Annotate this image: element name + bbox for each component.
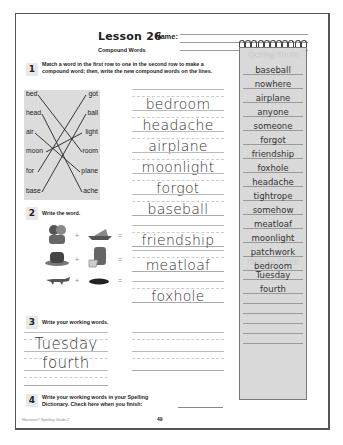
spelling-word: forgot [243,131,303,145]
spelling-word: someone [243,117,303,131]
spelling-word: moonlight [243,229,303,243]
working-word[interactable]: Tuesday [243,266,303,280]
section-3-instruction: Write your working words. [42,319,108,326]
ship-picture-icon [86,227,114,241]
working-words-list: Tuesday fourth [243,266,303,344]
check-line[interactable] [178,406,223,408]
working-word[interactable]: fourth [243,280,303,294]
section-3-number: 3 [26,316,38,329]
spelling-notebook: Spelling Words baseball nowhere airplane… [239,47,307,400]
section-2-number: 2 [26,207,38,220]
answer-line[interactable]: headache [132,111,224,132]
section-2-instruction: Write the word. [42,210,80,217]
answer-text: friendship [132,232,224,248]
working-word[interactable] [243,324,303,334]
working-word-line[interactable] [132,352,224,371]
page-number: 49 [157,416,163,422]
answer-text: foxhole [132,288,224,304]
answer-text: meatloaf [132,257,224,273]
working-word-line[interactable]: Tuesday [24,333,108,352]
section-3-right-lines [132,333,224,371]
equals-sign: = [118,277,122,284]
section-1-number: 1 [26,63,38,76]
spelling-word: nowhere [243,75,303,89]
meat-picture-icon [44,247,70,267]
spelling-word: anyone [243,103,303,117]
name-label: Name: [155,32,178,41]
answer-line[interactable]: meatloaf [132,251,224,272]
section-1-instruction: Match a word in the first row to one in … [42,61,220,75]
answer-line[interactable]: airplane [132,132,224,153]
spelling-word: patchwork [243,243,303,257]
working-word-line[interactable]: fourth [24,352,108,371]
answer-line[interactable]: forgot [132,174,224,195]
working-word[interactable] [243,304,303,314]
matching-lines [24,90,100,200]
spelling-words-list: baseball nowhere airplane anyone someone… [243,61,303,271]
equals-sign: = [118,256,122,263]
plus-sign: + [75,277,79,284]
spelling-word: somehow [243,201,303,215]
plus-sign: + [75,232,79,239]
lesson-title: Lesson 26 [98,30,162,43]
spelling-words-heading: Spelling Words [240,51,306,59]
section-2-answers: friendship meatloaf foxhole [132,226,224,303]
spelling-word: tightrope [243,187,303,201]
working-words-heading: Working Words [240,258,306,266]
loaf-picture-icon [88,246,108,268]
friends-picture-icon [46,223,68,245]
hole-picture-icon [88,278,110,285]
matching-box: bed head air moon for base got ball ligh… [24,90,100,200]
section-4-number: 4 [26,394,38,407]
answer-line[interactable]: moonlight [132,153,224,174]
spelling-word: airplane [243,89,303,103]
answer-line[interactable]: friendship [132,226,224,247]
working-word[interactable] [243,314,303,324]
section-3-left-lines: Tuesday fourth [24,333,108,386]
working-word[interactable] [243,294,303,304]
fox-picture-icon [45,276,71,286]
plus-sign: + [75,256,79,263]
working-word-line[interactable] [132,333,224,352]
spelling-word: headache [243,173,303,187]
answer-line[interactable]: foxhole [132,282,224,303]
answer-line[interactable]: baseball [132,195,224,216]
spelling-word: foxhole [243,159,303,173]
spelling-word: meatloaf [243,215,303,229]
answer-line[interactable]: bedroom [132,90,224,111]
working-word[interactable] [243,334,303,344]
footer-credit: Horizons® Spelling Grade 2 [22,418,69,422]
section-4-instruction: Write your working words in your Spellin… [42,394,167,408]
answer-text: baseball [132,201,224,217]
equals-sign: = [118,232,122,239]
spelling-word: baseball [243,61,303,75]
lesson-subtitle: Compound Words [98,47,146,53]
section-1-answers: bedroom headache airplane moonlight forg… [132,90,224,216]
working-word-line[interactable] [24,371,108,386]
spelling-word: friendship [243,145,303,159]
